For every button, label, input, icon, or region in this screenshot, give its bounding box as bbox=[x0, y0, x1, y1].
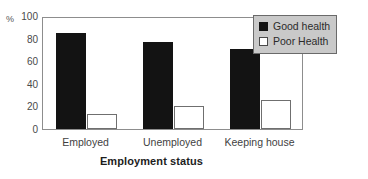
bar-unemployed-good-health bbox=[143, 42, 173, 129]
y-axis-tick-0: 0 bbox=[10, 125, 38, 135]
legend-item-label: Good health bbox=[273, 21, 330, 32]
chart-legend: Good healthPoor Health bbox=[253, 15, 337, 54]
x-axis-label-keeping-house: Keeping house bbox=[224, 136, 294, 148]
legend-item-label: Poor Health bbox=[273, 36, 328, 47]
legend-swatch-icon bbox=[259, 22, 268, 31]
bar-unemployed-poor-health bbox=[174, 106, 204, 129]
bar-employed-poor-health bbox=[87, 114, 117, 129]
bar-keeping-house-good-health bbox=[230, 49, 260, 129]
legend-item-good-health: Good health bbox=[259, 19, 330, 34]
y-axis-tick-60: 60 bbox=[10, 57, 38, 67]
y-axis-tick-40: 40 bbox=[10, 80, 38, 90]
bar-keeping-house-poor-health bbox=[261, 100, 291, 129]
bar-chart: % 020406080100 EmployedUnemployedKeeping… bbox=[0, 0, 368, 179]
x-axis-label-employed: Employed bbox=[62, 136, 109, 148]
y-axis-tick-100: 100 bbox=[10, 12, 38, 22]
y-axis-tick-80: 80 bbox=[10, 35, 38, 45]
legend-swatch-icon bbox=[259, 37, 268, 46]
bar-employed-good-health bbox=[56, 33, 86, 129]
x-axis-label-unemployed: Unemployed bbox=[143, 136, 202, 148]
legend-item-poor-health: Poor Health bbox=[259, 34, 330, 49]
x-axis-title: Employment status bbox=[0, 155, 303, 167]
y-axis-tick-20: 20 bbox=[10, 102, 38, 112]
y-axis-tick-labels: 020406080100 bbox=[6, 0, 38, 179]
